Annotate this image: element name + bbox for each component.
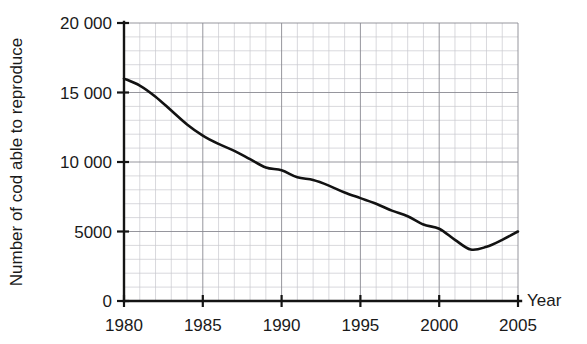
y-tick-label: 10 000 [60, 153, 112, 172]
cod-population-series-line [124, 79, 518, 250]
y-tick-label: 20 000 [60, 14, 112, 33]
x-tick-label: 1990 [263, 316, 301, 335]
x-tick-label: 1985 [184, 316, 222, 335]
y-axis-tick-labels: 0500010 00015 00020 000 [60, 14, 112, 311]
x-tick-label: 2000 [420, 316, 458, 335]
x-axis-title: Year [527, 291, 562, 310]
x-axis-tick-labels: 198019851990199520002005 [105, 316, 537, 335]
y-tick-label: 15 000 [60, 84, 112, 103]
y-axis-title: Number of cod able to reproduce [7, 38, 26, 287]
x-tick-label: 1980 [105, 316, 143, 335]
y-tick-label: 5000 [74, 223, 112, 242]
y-tick-label: 0 [103, 292, 112, 311]
cod-population-line-chart: 0500010 00015 00020 000 1980198519901995… [0, 0, 587, 344]
chart-page: 0500010 00015 00020 000 1980198519901995… [0, 0, 587, 344]
x-tick-label: 2005 [499, 316, 537, 335]
x-tick-label: 1995 [341, 316, 379, 335]
